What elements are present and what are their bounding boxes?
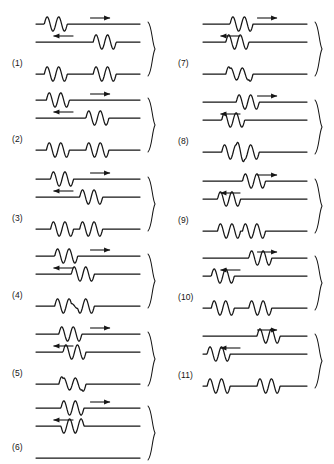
resultant-wave: [203, 301, 307, 315]
panel-canvas: [0, 171, 334, 237]
panel-canvas: [0, 398, 334, 464]
bottom-wave: [203, 347, 307, 361]
panel-canvas: [0, 14, 334, 80]
grouping-brace: [315, 334, 322, 388]
bottom-wave: [203, 192, 307, 206]
right-arrow-icon: [271, 172, 277, 177]
top-wave: [203, 17, 307, 31]
resultant-wave: [203, 379, 307, 393]
panel-label: (8): [178, 136, 189, 146]
grouping-brace: [315, 179, 322, 233]
panel-canvas: [0, 92, 334, 158]
right-arrow-icon: [271, 327, 277, 332]
left-arrow-icon: [53, 417, 59, 422]
interference-panel: (10): [0, 248, 334, 314]
grouping-brace: [315, 100, 322, 154]
right-arrow-icon: [271, 249, 277, 254]
resultant-wave: [203, 142, 307, 161]
resultant-wave: [203, 224, 307, 238]
grouping-brace: [148, 406, 155, 460]
bottom-wave: [203, 35, 307, 49]
right-arrow-icon: [104, 399, 110, 404]
right-arrow-icon: [271, 93, 277, 98]
panel-label: (9): [178, 215, 189, 225]
top-wave: [36, 401, 140, 415]
panel-canvas: [0, 326, 334, 392]
panel-label: (7): [178, 58, 189, 68]
top-wave: [203, 95, 307, 109]
grouping-brace: [315, 256, 322, 310]
panel-label: (11): [178, 370, 193, 380]
right-arrow-icon: [271, 15, 277, 20]
top-wave: [203, 329, 307, 343]
bottom-wave: [203, 269, 307, 283]
resultant-wave: [203, 67, 307, 81]
interference-panel: (8): [0, 92, 334, 158]
bottom-wave: [203, 113, 307, 127]
bottom-wave: [36, 419, 140, 433]
grouping-brace: [315, 22, 322, 76]
interference-panel: (7): [0, 14, 334, 80]
top-wave: [203, 174, 307, 188]
panel-label: (6): [12, 442, 23, 452]
interference-panel: (11): [0, 326, 334, 392]
left-arrow-icon: [220, 33, 226, 38]
top-wave: [203, 251, 307, 265]
panel-canvas: [0, 248, 334, 314]
left-arrow-icon: [220, 190, 226, 195]
interference-panel: (6): [0, 398, 334, 464]
panel-label: (10): [178, 292, 194, 302]
interference-panel: (9): [0, 171, 334, 237]
